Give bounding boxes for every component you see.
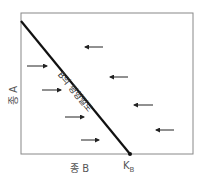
- plot-frame: [21, 13, 193, 154]
- carrying-capacity-label: KB: [123, 160, 134, 174]
- kb-point: [128, 152, 132, 156]
- y-axis-label: 종 A: [5, 86, 20, 105]
- isocline-diagram: [0, 0, 202, 179]
- population-trajectory-arrows: [27, 47, 174, 140]
- x-axis-label: 종 B: [70, 160, 89, 175]
